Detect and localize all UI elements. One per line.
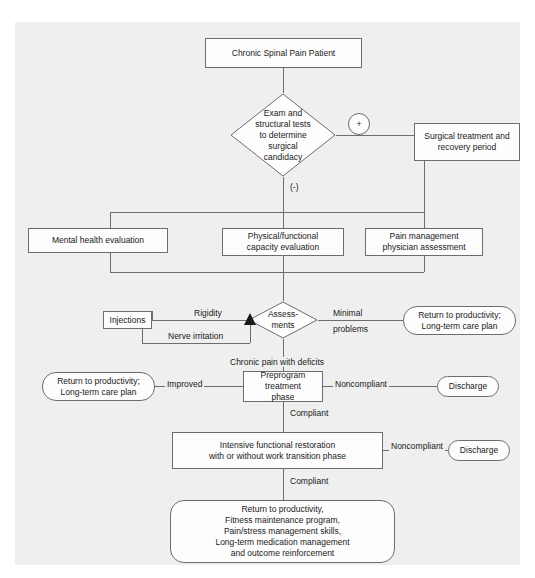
node-final-outcome[interactable]: Return to productivity, Fitness maintena… <box>170 500 395 563</box>
node-injections[interactable]: Injections <box>103 311 152 329</box>
connector-rigidity-to-injections <box>152 311 153 320</box>
edge-label-improved: Improved <box>165 379 204 389</box>
connector-bus-to-assessments <box>283 272 284 301</box>
line: capacity evaluation <box>247 242 319 253</box>
line: Return to productivity; <box>418 310 501 321</box>
edge-label-noncompliant-2: Noncompliant <box>389 441 445 451</box>
edge-label-compliant-1: Compliant <box>288 408 330 418</box>
line: Long-term care plan <box>57 387 140 398</box>
plus-marker-badge: + <box>348 113 370 135</box>
connector-mental-to-bus <box>110 253 111 272</box>
node-surgical-treatment-label: Surgical treatment and recovery period <box>424 131 510 153</box>
node-physical-capacity-label: Physical/functional capacity evaluation <box>247 231 319 253</box>
connector-preprogram-compliant <box>283 402 284 432</box>
connector-assessments-minimal <box>318 320 403 321</box>
node-intensive-restoration-label: Intensive functional restoration with or… <box>209 440 346 462</box>
arrowhead-into-assessments <box>244 313 256 325</box>
line: Return to productivity; <box>57 376 140 387</box>
minus-marker-label: (-) <box>288 182 301 192</box>
node-physical-capacity[interactable]: Physical/functional capacity evaluation <box>222 228 344 256</box>
line: candidacy <box>255 152 310 163</box>
flowchart-canvas: Chronic Spinal Pain Patient Exam and str… <box>0 0 535 578</box>
line: physician assessment <box>382 242 465 253</box>
connector-pain-to-bus <box>424 256 425 272</box>
node-return-productivity-2-label: Return to productivity; Long-term care p… <box>57 376 140 398</box>
node-return-productivity-1[interactable]: Return to productivity; Long-term care p… <box>403 306 516 335</box>
connector-intensive-compliant <box>283 469 284 500</box>
node-discharge-2-label: Discharge <box>460 445 498 456</box>
connector-surgery-down <box>424 161 425 212</box>
line: and outcome reinforcement <box>215 548 349 559</box>
connector-assessments-rigidity <box>152 320 248 321</box>
connector-decision-to-surgery <box>336 135 424 136</box>
node-preprogram[interactable]: Preprogram treatment phase <box>243 371 323 402</box>
line: Pain/stress management skills, <box>215 526 349 537</box>
edge-label-minimal: Minimal <box>331 308 364 318</box>
line: Intensive functional restoration <box>209 440 346 451</box>
connector-start-to-decision <box>283 68 284 93</box>
node-surgical-treatment[interactable]: Surgical treatment and recovery period <box>414 123 520 161</box>
line: Assess- <box>268 309 298 320</box>
bus-top <box>110 212 424 213</box>
node-preprogram-label: Preprogram treatment phase <box>244 370 322 403</box>
connector-bus-to-pain <box>424 212 425 228</box>
line: surgical <box>255 141 310 152</box>
node-mental-health-label: Mental health evaluation <box>52 235 144 246</box>
line: Return to productivity, <box>215 504 349 515</box>
node-surgical-decision[interactable]: Exam and structural tests to determine s… <box>230 93 336 177</box>
node-return-productivity-2[interactable]: Return to productivity; Long-term care p… <box>42 372 155 401</box>
line: Long-term medication management <box>215 537 349 548</box>
line: phase <box>244 392 322 403</box>
line: Long-term care plan <box>418 321 501 332</box>
node-discharge-2[interactable]: Discharge <box>448 440 510 461</box>
node-surgical-decision-label: Exam and structural tests to determine s… <box>230 93 336 177</box>
node-final-outcome-label: Return to productivity, Fitness maintena… <box>215 504 349 559</box>
connector-physical-to-bus <box>283 256 284 272</box>
connector-nerve-irritation <box>142 343 250 344</box>
line: recovery period <box>424 142 510 153</box>
line: to determine <box>255 130 310 141</box>
node-assessments[interactable]: Assess- ments <box>248 301 318 339</box>
node-discharge-1[interactable]: Discharge <box>437 376 499 397</box>
bus-bottom <box>110 272 424 273</box>
line: Exam and <box>255 108 310 119</box>
edge-label-chronic-pain-deficits: Chronic pain with deficits <box>228 357 326 367</box>
node-intensive-restoration[interactable]: Intensive functional restoration with or… <box>172 432 383 469</box>
node-discharge-1-label: Discharge <box>449 381 487 392</box>
connector-decision-minus-down <box>283 177 284 212</box>
line: Pain management <box>382 231 465 242</box>
edge-label-problems: problems <box>331 324 370 334</box>
line: Physical/functional <box>247 231 319 242</box>
edge-label-rigidity: Rigidity <box>192 308 224 318</box>
node-return-productivity-1-label: Return to productivity; Long-term care p… <box>418 310 501 332</box>
node-mental-health[interactable]: Mental health evaluation <box>28 228 168 253</box>
line: Surgical treatment and <box>424 131 510 142</box>
line: Preprogram treatment <box>244 370 322 392</box>
edge-label-noncompliant-1: Noncompliant <box>333 379 389 389</box>
node-pain-management[interactable]: Pain management physician assessment <box>365 228 483 256</box>
plus-marker-label: + <box>357 119 362 130</box>
node-start-label: Chronic Spinal Pain Patient <box>232 48 335 59</box>
edge-label-nerve-irritation: Nerve irritation <box>166 331 225 341</box>
node-start[interactable]: Chronic Spinal Pain Patient <box>205 38 362 68</box>
line: with or without work transition phase <box>209 451 346 462</box>
line: structural tests <box>255 119 310 130</box>
node-pain-management-label: Pain management physician assessment <box>382 231 465 253</box>
node-injections-label: Injections <box>110 315 146 326</box>
connector-bus-to-physical <box>283 212 284 228</box>
line: Fitness maintenance program, <box>215 515 349 526</box>
connector-injections-down <box>142 329 143 343</box>
node-assessments-label: Assess- ments <box>248 301 318 339</box>
line: ments <box>268 320 298 331</box>
edge-label-compliant-2: Compliant <box>288 476 330 486</box>
